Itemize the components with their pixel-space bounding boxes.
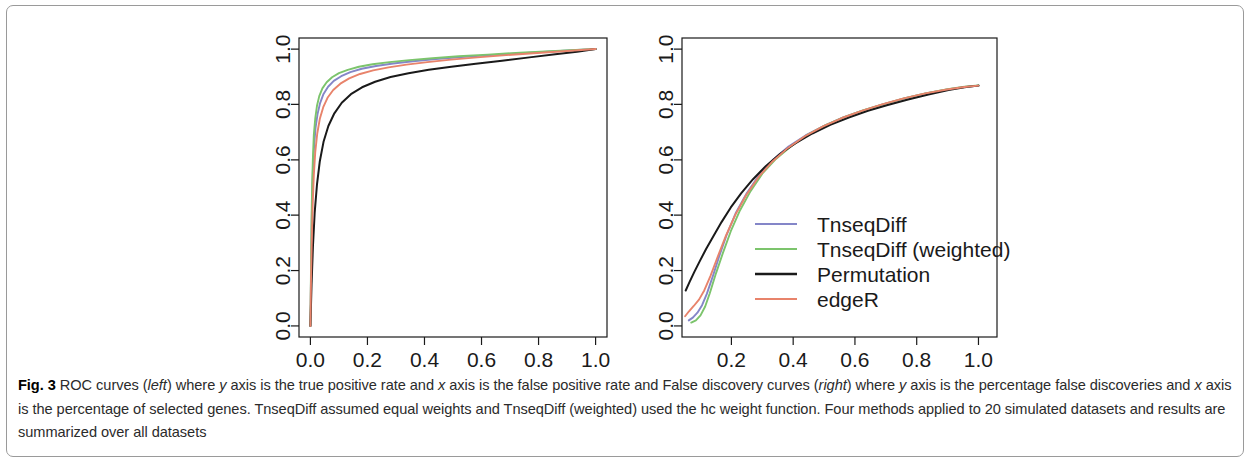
series-line bbox=[310, 49, 595, 326]
y-tick-label: 0.4 bbox=[655, 200, 678, 230]
series-line bbox=[310, 49, 595, 326]
false-discovery-curves-plot: 0.20.40.60.81.00.00.20.40.60.81.0TnseqDi… bbox=[627, 6, 1057, 376]
y-tick-label: 0.8 bbox=[272, 90, 295, 119]
x-tick-label: 0.6 bbox=[840, 348, 869, 371]
figure-number: Fig. 3 bbox=[18, 377, 56, 393]
roc-plot-canvas: 0.00.20.40.60.81.00.00.20.40.60.81.0 bbox=[197, 6, 627, 376]
y-tick-label: 0.4 bbox=[272, 200, 295, 230]
y-tick-label: 1.0 bbox=[272, 34, 295, 63]
figure-caption: Fig. 3 ROC curves (left) where y axis is… bbox=[18, 374, 1233, 445]
legend-label: edgeR bbox=[817, 288, 879, 311]
figure-caption-text: ROC curves (left) where y axis is the tr… bbox=[18, 377, 1231, 440]
legend: TnseqDiffTnseqDiff (weighted)Permutation… bbox=[755, 213, 1010, 311]
series-line bbox=[310, 49, 595, 326]
legend-label: TnseqDiff (weighted) bbox=[817, 238, 1010, 261]
y-tick-label: 0.0 bbox=[272, 311, 295, 340]
y-tick-label: 0.2 bbox=[655, 256, 678, 285]
x-tick-label: 0.2 bbox=[353, 348, 382, 371]
y-tick-label: 0.6 bbox=[655, 145, 678, 174]
x-tick-label: 0.8 bbox=[524, 348, 553, 371]
legend-label: TnseqDiff bbox=[817, 213, 907, 236]
y-tick-label: 0.2 bbox=[272, 256, 295, 285]
x-tick-label: 0.0 bbox=[296, 348, 325, 371]
plot-box bbox=[299, 38, 607, 337]
series-line bbox=[310, 49, 595, 326]
x-tick-label: 1.0 bbox=[581, 348, 610, 371]
y-tick-label: 0.0 bbox=[655, 311, 678, 340]
series-group bbox=[310, 49, 595, 326]
false-discovery-plot-canvas: 0.20.40.60.81.00.00.20.40.60.81.0TnseqDi… bbox=[627, 6, 1057, 376]
x-tick-label: 1.0 bbox=[964, 348, 993, 371]
figure-frame: 0.00.20.40.60.81.00.00.20.40.60.81.0 0.2… bbox=[6, 5, 1244, 457]
y-tick-label: 1.0 bbox=[655, 34, 678, 63]
x-tick-label: 0.4 bbox=[779, 348, 809, 371]
x-tick-label: 0.6 bbox=[467, 348, 496, 371]
x-tick-label: 0.2 bbox=[717, 348, 746, 371]
x-tick-label: 0.8 bbox=[902, 348, 931, 371]
y-tick-label: 0.6 bbox=[272, 145, 295, 174]
x-tick-label: 0.4 bbox=[410, 348, 440, 371]
legend-label: Permutation bbox=[817, 263, 930, 286]
y-tick-label: 0.8 bbox=[655, 90, 678, 119]
roc-curves-plot: 0.00.20.40.60.81.00.00.20.40.60.81.0 bbox=[197, 6, 627, 376]
